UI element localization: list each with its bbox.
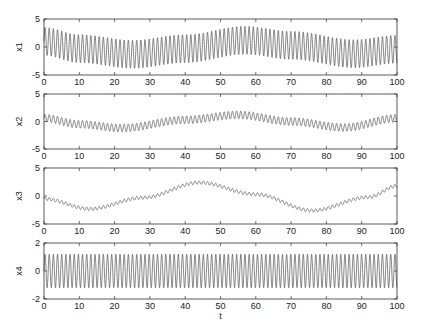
y-tick-label: -5 [32,144,40,154]
y-tick-label: 5 [35,14,40,24]
x-tick-label: 50 [215,77,225,87]
series-line-x1 [44,26,397,68]
x-tick-label: 60 [251,301,261,311]
x-tick-label: 10 [74,226,84,236]
y-tick-label: 0 [35,191,40,201]
x-tick-label: 80 [321,77,331,87]
y-axis-label-x4: x4 [14,266,24,276]
x-tick-label: 90 [357,151,367,161]
axes-box-x2 [44,94,397,149]
x-tick-label: 40 [180,77,190,87]
series-line-x2 [44,111,397,132]
x-tick-label: 100 [389,77,404,87]
y-tick-label: 0 [35,266,40,276]
x-tick-label: 60 [251,151,261,161]
x-tick-label: 70 [286,151,296,161]
x-tick-label: 100 [389,301,404,311]
y-axis-label-x3: x3 [14,191,24,201]
x-tick-label: 90 [357,301,367,311]
x-axis-label: t [219,311,222,321]
x-tick-label: 60 [251,226,261,236]
y-tick-label: -2 [32,294,40,304]
x-tick-label: 90 [357,77,367,87]
x-tick-label: 30 [145,151,155,161]
y-axis-label-x2: x2 [14,117,24,127]
series-line-x3 [44,181,397,212]
x-tick-label: 10 [74,301,84,311]
x-tick-label: 10 [74,77,84,87]
x-tick-label: 20 [110,226,120,236]
figure: 0102030405060708090100-505x1010203040506… [0,0,425,334]
y-tick-label: 5 [35,89,40,99]
x-tick-label: 100 [389,226,404,236]
x-tick-label: 70 [286,226,296,236]
x-tick-label: 20 [110,151,120,161]
x-tick-label: 80 [321,301,331,311]
x-tick-label: 90 [357,226,367,236]
x-tick-label: 0 [41,77,46,87]
x-tick-label: 80 [321,226,331,236]
x-tick-label: 0 [41,151,46,161]
series-line-x4 [44,254,397,288]
x-tick-label: 50 [215,226,225,236]
x-tick-label: 40 [180,151,190,161]
x-tick-label: 70 [286,77,296,87]
x-tick-label: 0 [41,301,46,311]
y-axis-label-x1: x1 [14,42,24,52]
x-tick-label: 20 [110,301,120,311]
y-tick-label: -5 [32,219,40,229]
x-tick-label: 0 [41,226,46,236]
y-tick-label: 2 [35,238,40,248]
x-tick-label: 50 [215,151,225,161]
y-tick-label: 5 [35,163,40,173]
x-tick-label: 30 [145,77,155,87]
x-tick-label: 50 [215,301,225,311]
y-tick-label: 0 [35,42,40,52]
x-tick-label: 60 [251,77,261,87]
y-tick-label: -5 [32,70,40,80]
x-tick-label: 70 [286,301,296,311]
x-tick-label: 10 [74,151,84,161]
x-tick-label: 40 [180,226,190,236]
x-tick-label: 30 [145,301,155,311]
x-tick-label: 80 [321,151,331,161]
x-tick-label: 40 [180,301,190,311]
x-tick-label: 100 [389,151,404,161]
axes-box-x3 [44,168,397,224]
x-tick-label: 20 [110,77,120,87]
x-tick-label: 30 [145,226,155,236]
y-tick-label: 0 [35,117,40,127]
